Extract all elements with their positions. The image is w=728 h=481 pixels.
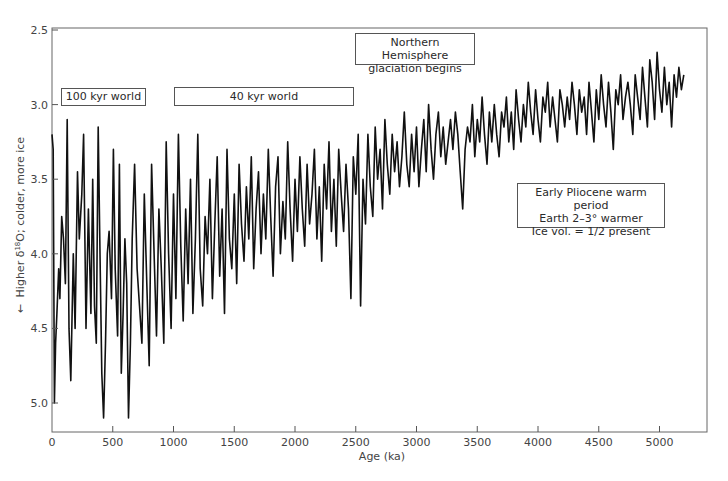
x-tick-label: 5000 — [646, 436, 674, 449]
annotation-text: Early Pliocene warm period — [518, 186, 664, 212]
annotation-early-pliocene-warm-period: Early Pliocene warm period Earth 2–3° wa… — [517, 183, 665, 228]
y-tick-label: 2.5 — [31, 24, 49, 37]
annotation-northern-hemisphere-glaciation: Northern Hemisphere glaciation begins — [355, 33, 475, 65]
y-tick-label: 4.0 — [31, 248, 49, 261]
y-tick-label: 3.5 — [31, 173, 49, 186]
y-tick-label: 3.0 — [31, 99, 49, 112]
annotation-text: Earth 2–3° warmer — [518, 212, 664, 225]
annotation-text: 40 kyr world — [175, 88, 353, 105]
annotation-text: Ice vol. = 1/2 present — [518, 225, 664, 238]
x-tick-label: 1000 — [160, 436, 188, 449]
x-tick-label: 3500 — [463, 436, 491, 449]
y-axis-arrow: ← — [14, 304, 27, 313]
x-tick-label: 2500 — [342, 436, 370, 449]
y-tick-label: 5.0 — [31, 397, 49, 410]
x-tick-label: 1500 — [220, 436, 248, 449]
y-tick-label: 4.5 — [31, 322, 49, 335]
y-axis-title: ← Higher δ18O; colder, more ice — [14, 137, 27, 314]
x-tick-label: 4000 — [524, 436, 552, 449]
y-axis-superscript: 18 — [14, 242, 22, 251]
annotation-text: 100 kyr world — [62, 89, 145, 105]
x-tick-label: 4500 — [585, 436, 613, 449]
annotation-text: Northern Hemisphere — [356, 36, 474, 62]
x-tick-label: 2000 — [281, 436, 309, 449]
x-tick-label: 0 — [49, 436, 56, 449]
x-axis-ticks: 0500100015002000250030003500400045005000 — [49, 426, 674, 449]
x-axis-title: Age (ka) — [359, 450, 405, 463]
annotation-40kyr-world: 40 kyr world — [174, 87, 354, 106]
annotation-100kyr-world: 100 kyr world — [61, 88, 146, 106]
annotation-text: glaciation begins — [356, 62, 474, 75]
x-tick-label: 500 — [102, 436, 123, 449]
x-tick-label: 3000 — [403, 436, 431, 449]
